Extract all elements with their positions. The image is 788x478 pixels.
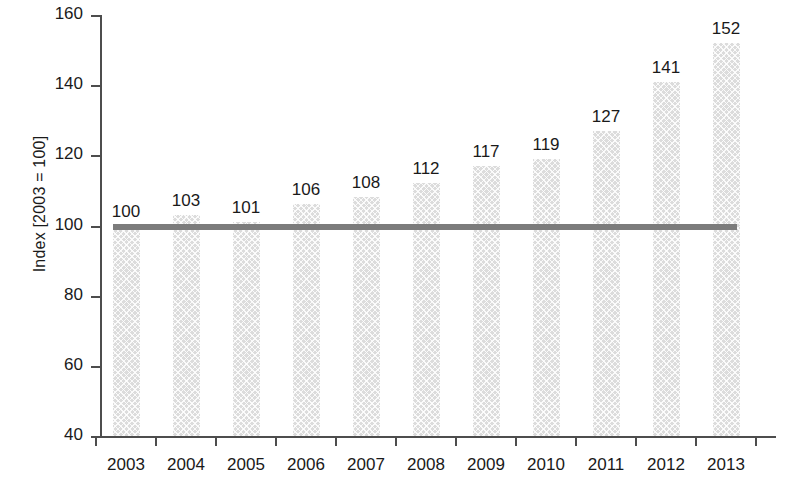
x-axis-tick (215, 436, 217, 446)
x-axis-label: 2013 (691, 455, 761, 475)
x-axis-tick (95, 436, 97, 446)
y-axis-tick: 140 (91, 85, 100, 87)
bar-value-label: 152 (686, 19, 766, 39)
baseline-reference-line (113, 224, 737, 230)
x-axis-tick (395, 436, 397, 446)
y-axis-tick-label: 80 (64, 285, 83, 305)
y-axis-line (100, 15, 102, 438)
bar (233, 222, 260, 436)
y-axis-title: Index [2003 = 100] (31, 4, 49, 404)
y-axis-tick-label: 100 (55, 215, 83, 235)
y-axis-tick-label: 120 (55, 144, 83, 164)
bar-value-label: 119 (506, 135, 586, 155)
x-axis-tick (455, 436, 457, 446)
bar (293, 204, 320, 436)
y-axis-tick-label: 160 (55, 4, 83, 24)
bar-value-label: 127 (566, 107, 646, 127)
y-axis-tick: 160 (91, 15, 100, 17)
x-axis-tick (695, 436, 697, 446)
y-axis-tick-label: 40 (64, 425, 83, 445)
y-axis-tick-label: 140 (55, 74, 83, 94)
x-axis-tick (755, 436, 757, 446)
bar (593, 131, 620, 436)
x-axis-tick (335, 436, 337, 446)
bar-chart: Index [2003 = 100] 406080100120140160 10… (0, 0, 788, 478)
bar (653, 82, 680, 436)
bar (713, 43, 740, 436)
bar (533, 159, 560, 436)
x-axis-line (100, 436, 776, 438)
bar (473, 166, 500, 436)
y-axis-tick-label: 60 (64, 355, 83, 375)
bar (413, 183, 440, 436)
x-axis-tick (515, 436, 517, 446)
bar-value-label: 112 (386, 159, 466, 179)
x-axis-tick (275, 436, 277, 446)
y-axis-tick: 120 (91, 155, 100, 157)
bar-value-label: 101 (206, 198, 286, 218)
bar-value-label: 141 (626, 58, 706, 78)
bar (173, 215, 200, 436)
x-axis-tick (635, 436, 637, 446)
y-axis-tick: 80 (91, 296, 100, 298)
x-axis-tick (155, 436, 157, 446)
bar (353, 197, 380, 436)
plot-area: 406080100120140160 100103101106108112117… (100, 15, 776, 437)
x-axis-tick (575, 436, 577, 446)
bar (113, 226, 140, 437)
y-axis-tick: 100 (91, 226, 100, 228)
y-axis-tick: 60 (91, 366, 100, 368)
